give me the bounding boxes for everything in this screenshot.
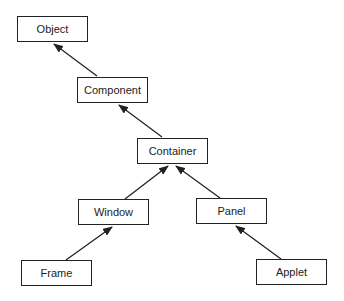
node-object-label: Object [37,23,69,35]
node-applet-label: Applet [276,266,307,278]
node-frame-label: Frame [41,267,73,279]
node-container-label: Container [149,145,197,157]
class-hierarchy-diagram: Object Component Container Window Panel … [0,0,344,301]
node-frame: Frame [21,260,92,286]
arrow-container-to-component [119,105,162,137]
node-window-label: Window [94,206,133,218]
node-panel: Panel [196,198,267,224]
arrow-component-to-object [54,44,97,76]
node-container: Container [137,138,208,164]
node-applet: Applet [256,259,327,285]
node-object: Object [17,16,88,42]
arrow-frame-to-window [66,227,112,260]
arrow-applet-to-panel [236,226,281,259]
node-window: Window [78,199,149,225]
node-panel-label: Panel [217,205,245,217]
node-component: Component [77,77,148,103]
arrow-window-to-container [125,166,168,199]
arrow-panel-to-container [176,166,220,198]
node-component-label: Component [84,84,141,96]
